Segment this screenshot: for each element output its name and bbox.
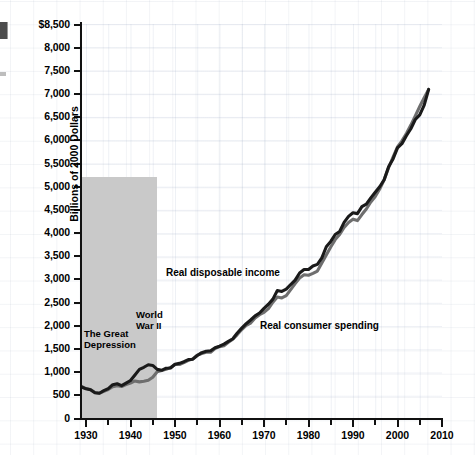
y-axis-line [80, 22, 82, 420]
y-axis-tick [74, 348, 81, 350]
x-axis-tick-label: 1990 [330, 429, 376, 441]
x-axis-tick-label: 2010 [419, 429, 465, 441]
x-axis-tick [263, 420, 265, 427]
x-axis-tick-label: 1930 [63, 429, 109, 441]
x-axis-minor-tick [419, 420, 421, 425]
y-axis-tick-label: 3,000 [2, 272, 70, 284]
y-axis-tick-label: 1,000 [2, 365, 70, 377]
chart-root: $8,5008,0007,5007,0006,5006,0005,5005,00… [0, 0, 475, 455]
band-label-world-war-ii: World War II [136, 309, 163, 331]
x-axis-tick-label: 1970 [241, 429, 287, 441]
x-axis-minor-tick [196, 420, 198, 425]
x-axis-tick-label: 1940 [108, 429, 154, 441]
y-axis-tick-label: 2,000 [2, 319, 70, 331]
y-axis-tick-label: 0 [2, 412, 70, 424]
x-axis-tick [441, 420, 443, 427]
x-axis-minor-tick [152, 420, 154, 425]
y-axis-tick-label: 7,500 [2, 64, 70, 76]
y-axis-tick-label: 7,000 [2, 87, 70, 99]
x-axis-line [80, 418, 443, 420]
x-axis-tick [130, 420, 132, 427]
x-axis-minor-tick [241, 420, 243, 425]
y-axis-tick-label: 3,500 [2, 249, 70, 261]
x-axis-tick [397, 420, 399, 427]
x-axis-tick [308, 420, 310, 427]
x-axis-minor-tick [330, 420, 332, 425]
y-axis-tick [74, 278, 81, 280]
x-axis-minor-tick [107, 420, 109, 425]
x-axis-minor-tick [374, 420, 376, 425]
x-axis-tick [219, 420, 221, 427]
y-axis-tick [74, 24, 81, 26]
y-axis-tick-label: 5,000 [2, 180, 70, 192]
y-axis-tick-label: 2,500 [2, 296, 70, 308]
x-axis-tick-label: 1950 [152, 429, 198, 441]
y-axis-tick-label: 4,000 [2, 226, 70, 238]
y-axis-tick [74, 47, 81, 49]
y-axis-tick [74, 371, 81, 373]
series-label-real-consumer-spending: Real consumer spending [260, 320, 379, 331]
y-axis-tick [74, 255, 81, 257]
band-label-great-depression: The Great Depression [84, 328, 136, 350]
x-axis-tick-label: 1980 [286, 429, 332, 441]
y-axis-tick [74, 394, 81, 396]
y-axis-tick-label: 500 [2, 388, 70, 400]
x-axis-tick-label: 1960 [197, 429, 243, 441]
y-axis-tick [74, 418, 81, 420]
x-axis-tick-label: 2000 [375, 429, 421, 441]
y-axis-tick-label: 4,500 [2, 203, 70, 215]
series-label-real-disposable-income: Real disposable income [166, 267, 280, 278]
y-axis-tick-label: 5,500 [2, 157, 70, 169]
y-axis-tick-label: 1,500 [2, 342, 70, 354]
y-axis-tick-label: 8,000 [2, 41, 70, 53]
x-axis-tick [85, 420, 87, 427]
y-axis-title: Billions of 2000 Dollars [68, 84, 80, 244]
x-axis-tick [352, 420, 354, 427]
x-axis-tick [174, 420, 176, 427]
y-axis-tick-label: $8,500 [2, 18, 70, 30]
y-axis-tick [74, 325, 81, 327]
y-axis-tick-label: 6,500 [2, 110, 70, 122]
x-axis-minor-tick [285, 420, 287, 425]
y-axis-tick-label: 6,000 [2, 133, 70, 145]
y-axis-tick [74, 302, 81, 304]
y-axis-tick [74, 70, 81, 72]
